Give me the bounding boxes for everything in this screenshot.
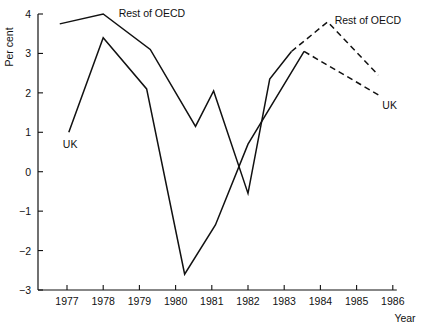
x-axis-tick-label: 1979 [128,295,152,307]
y-axis-tick-label: 0 [25,166,31,178]
x-axis-tick-label: 1981 [200,295,224,307]
series-label-uk: UK [382,99,397,111]
x-axis-tick-label: 1978 [92,295,116,307]
y-axis-tick-label: −2 [19,245,31,257]
y-axis-tick-label: 4 [25,8,31,20]
series-line-rest-of-oecd [60,14,292,193]
x-axis-tick-label: 1986 [381,295,405,307]
y-axis-title: Per cent [3,27,15,66]
series-line-uk [69,38,304,275]
series-label-rest-of-oecd: Rest of OECD [119,7,186,19]
x-axis-title: Year [394,312,416,324]
y-axis-tick-label: 2 [25,87,31,99]
x-axis-tick-label: 1985 [345,295,369,307]
data-series-group [60,14,379,274]
line-chart: 43210−1−2−3 1977197819791980198119821983… [0,0,434,330]
series-forecast-line-uk [304,51,378,94]
x-axis: 1977197819791980198119821983198419851986 [38,285,405,307]
y-axis-tick-label: −3 [19,284,31,296]
x-axis-tick-label: 1980 [164,295,188,307]
series-label-rest-of-oecd: Rest of OECD [335,14,402,26]
x-axis-tick-label: 1977 [55,295,79,307]
series-label-uk: UK [63,138,78,150]
x-axis-tick-label: 1982 [236,295,260,307]
y-axis-tick-label: −1 [19,205,31,217]
y-axis: 43210−1−2−3 [19,8,43,296]
x-axis-tick-label: 1983 [273,295,297,307]
y-axis-tick-label: 1 [25,126,31,138]
series-forecast-line-rest-of-oecd [291,22,378,75]
y-axis-tick-label: 3 [25,47,31,59]
chart-canvas: 43210−1−2−3 1977197819791980198119821983… [0,0,434,330]
x-axis-tick-label: 1984 [309,295,333,307]
